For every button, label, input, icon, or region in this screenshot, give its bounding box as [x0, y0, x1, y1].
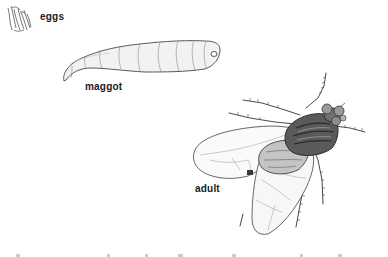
label-adult: adult — [195, 183, 220, 194]
maggot-illustration — [64, 40, 220, 81]
cropped-caption-fragment — [0, 252, 388, 257]
eggs-illustration — [8, 6, 31, 31]
maggot-spiracle — [211, 52, 217, 57]
adult-fly-illustration — [193, 73, 365, 234]
wing-base-mark — [247, 170, 253, 175]
label-eggs: eggs — [40, 11, 64, 22]
diagram-illustration — [0, 0, 388, 257]
life-cycle-diagram: eggs maggot adult — [0, 0, 388, 257]
label-maggot: maggot — [85, 81, 122, 92]
